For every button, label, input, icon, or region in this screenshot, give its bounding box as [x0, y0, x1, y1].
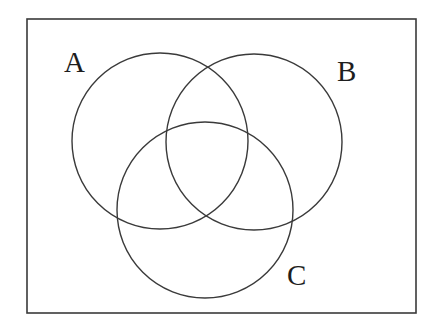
venn-diagram: A B C [0, 0, 423, 327]
label-set-a: A [64, 46, 85, 78]
universe-box [27, 19, 416, 313]
label-set-b: B [337, 55, 356, 87]
label-set-c: C [287, 259, 306, 291]
circle-c [117, 122, 293, 298]
circle-b [166, 54, 342, 230]
circle-a [72, 53, 248, 229]
